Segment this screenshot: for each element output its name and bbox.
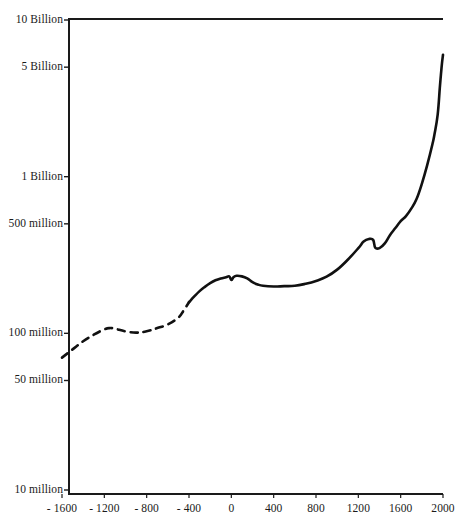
x-tick-label: 2000 (413, 503, 456, 515)
y-tick-label: 10 million (14, 484, 63, 496)
axis-frame (69, 19, 443, 494)
series-line-recorded (189, 55, 443, 302)
y-tick-label: 5 Billion (22, 61, 63, 73)
y-tick-label: 500 million (9, 218, 63, 230)
series-line-estimated (62, 302, 189, 357)
data-series-group (62, 55, 443, 358)
y-tick-label: 50 million (14, 374, 63, 386)
y-tick-label: 100 million (9, 327, 63, 339)
chart-plot-area (0, 0, 456, 528)
population-chart: 10 million50 million100 million500 milli… (0, 0, 456, 528)
axis-ticks (62, 20, 443, 498)
y-tick-label: 1 Billion (22, 171, 63, 183)
y-tick-label: 10 Billion (16, 14, 63, 26)
